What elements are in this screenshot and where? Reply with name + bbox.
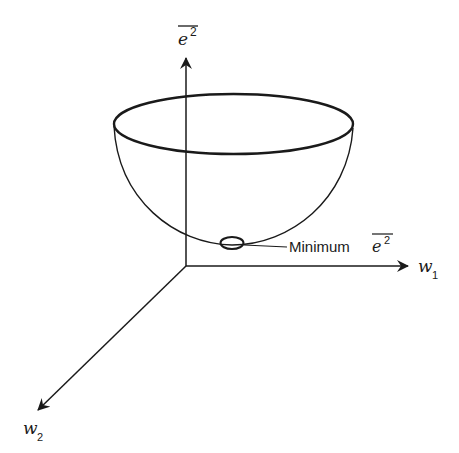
w1-subscript: 1 [432,269,438,281]
w2-symbol: w [23,418,38,438]
bowl-surface [114,126,353,245]
minimum-text: Minimum [289,238,350,255]
w2-subscript: 2 [37,431,43,443]
bowl-rim [114,94,353,154]
w2-axis [38,266,186,410]
w1-axis-label: w 1 [418,256,438,281]
w1-symbol: w [418,256,433,276]
minimum-e2-symbol: e [372,237,381,256]
w2-axis-label: w 2 [23,418,43,443]
e2-symbol: e [178,29,188,49]
minimum-leader-line [244,245,287,247]
e2-axis-label: e 2 [178,25,198,49]
performance-surface-diagram: e 2 Minimum e 2 w 1 w 2 [0,0,459,453]
minimum-label: Minimum e 2 [289,234,393,256]
minimum-point [221,237,244,249]
minimum-e2-superscript: 2 [384,234,390,246]
e2-superscript: 2 [190,25,197,39]
